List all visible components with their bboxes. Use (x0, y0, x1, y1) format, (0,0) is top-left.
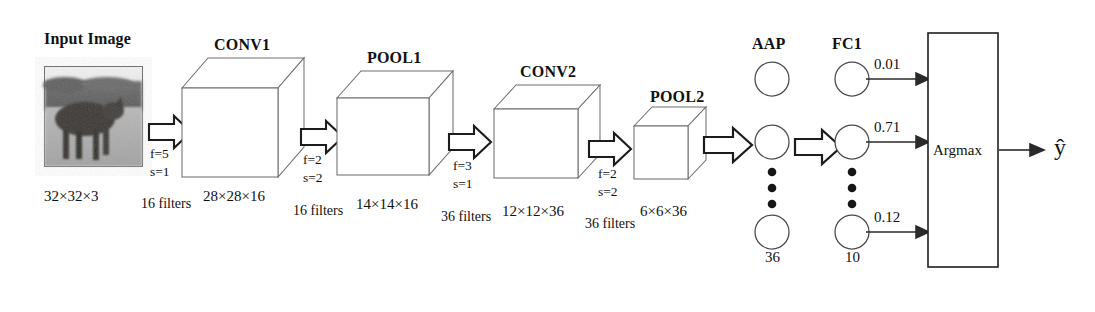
conv1-op-filters: 16 filters (141, 196, 191, 212)
pool1-title: POOL1 (367, 49, 421, 67)
pool1-cube (335, 68, 455, 180)
fc1-count: 10 (845, 249, 860, 266)
pool1-op-f: f=2 (303, 152, 322, 168)
conv1-dims: 28×28×16 (203, 188, 265, 205)
pool2-op-f: f=2 (598, 166, 617, 182)
pool2-cube (632, 104, 708, 184)
conv1-cube (180, 55, 306, 181)
conv2-cube (492, 82, 602, 184)
aap-neuron-2 (755, 125, 789, 159)
aap-ellipsis-dot (768, 168, 777, 177)
fc1-ellipsis-dot (848, 184, 857, 193)
aap-neurons (752, 60, 796, 250)
aap-ellipsis-dot (768, 184, 777, 193)
fc1-ellipsis-dot (848, 168, 857, 177)
fc1-probability-1: 0.01 (874, 56, 900, 73)
pool1-op-filters: 16 filters (293, 203, 343, 219)
fc1-ellipsis-dot (848, 200, 857, 209)
fc1-title: FC1 (832, 35, 862, 53)
pool2-dims: 6×6×36 (640, 203, 687, 220)
fc1-neuron-1 (835, 62, 869, 96)
output-label: ŷ (1054, 134, 1066, 161)
conv1-op-s: s=1 (150, 164, 170, 180)
pool1-dims: 14×14×16 (356, 196, 418, 213)
fc1-probability-2: 0.71 (874, 119, 900, 136)
conv2-op-s: s=1 (453, 176, 473, 192)
conv1-title: CONV1 (214, 36, 270, 54)
cnn-architecture-figure: Input Image (0, 0, 1095, 312)
aap-neuron-last (755, 215, 789, 249)
aap-title: AAP (752, 35, 785, 53)
input-image-dims: 32×32×3 (44, 188, 98, 205)
aap-input-arrow (703, 127, 753, 163)
pool2-op-s: s=2 (598, 184, 618, 200)
aap-ellipsis-dot (768, 200, 777, 209)
conv1-op-f: f=5 (150, 146, 169, 162)
pool1-op-s: s=2 (303, 170, 323, 186)
pool2-op-filters: 36 filters (585, 216, 635, 232)
input-image (44, 66, 143, 167)
aap-count: 36 (765, 249, 780, 266)
conv2-dims: 12×12×36 (502, 203, 564, 220)
horse-photo-grayscale (45, 67, 142, 166)
fc1-probability-3: 0.12 (874, 209, 900, 226)
output-arrow (999, 142, 1047, 158)
fc1-neuron-2 (835, 125, 869, 159)
conv2-op-arrow (448, 125, 492, 159)
aap-neuron-1 (755, 62, 789, 96)
pool2-op-arrow (588, 132, 632, 166)
input-image-title: Input Image (44, 30, 131, 48)
conv2-op-filters: 36 filters (441, 209, 491, 225)
conv2-title: CONV2 (520, 63, 576, 81)
fc1-neuron-last (835, 215, 869, 249)
conv2-op-f: f=3 (453, 158, 472, 174)
argmax-label: Argmax (933, 142, 982, 159)
